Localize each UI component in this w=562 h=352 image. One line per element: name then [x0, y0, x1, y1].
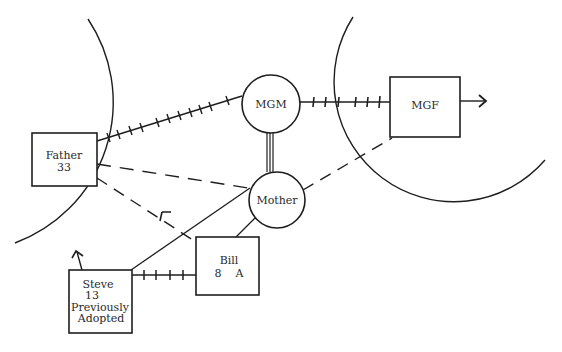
edge-father-mother	[97, 164, 248, 188]
node-bill-name: Bill	[220, 254, 239, 267]
edge-father-bill	[97, 178, 196, 242]
node-bill: Bill 8 A	[196, 237, 259, 295]
edge-mgm-mgf	[299, 96, 390, 108]
node-father-age: 33	[57, 161, 71, 174]
edge-mother-bill	[236, 218, 255, 237]
edge-mother-mgf	[303, 138, 392, 190]
node-mgf-name: MGF	[411, 99, 439, 112]
node-mother: Mother	[249, 172, 305, 228]
edge-father-mgm	[97, 96, 242, 142]
ecomap-diagram: Father 33 MGM MGF Mother Bill 8 A Steve …	[0, 0, 562, 352]
node-steve: Steve 13 Previously Adopted	[69, 270, 132, 333]
node-steve-status-line2: Adopted	[77, 312, 125, 325]
node-mgm: MGM	[242, 75, 300, 133]
edge-mgm-mother	[267, 132, 273, 172]
node-mgm-name: MGM	[255, 98, 286, 111]
node-mother-name: Mother	[256, 194, 298, 207]
node-bill-details: 8 A	[215, 267, 245, 280]
left-household-boundary	[15, 19, 113, 243]
edge-steve-bill	[132, 270, 196, 280]
arrow-toward-father-icon	[160, 212, 171, 221]
node-father: Father 33	[32, 133, 97, 186]
node-mgf: MGF	[390, 77, 460, 137]
